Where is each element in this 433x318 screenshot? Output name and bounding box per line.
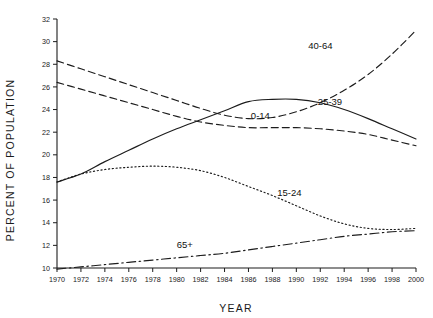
series-label-40-64: 40-64 <box>308 40 332 51</box>
y-tick-label: 24 <box>42 105 50 114</box>
series-label-15-24: 15-24 <box>277 187 301 198</box>
x-tick-label: 1998 <box>384 275 400 284</box>
y-tick-label: 32 <box>42 15 50 24</box>
y-tick-label: 16 <box>42 196 50 205</box>
x-tick-label: 1974 <box>97 275 113 284</box>
x-tick-label: 1990 <box>288 275 304 284</box>
chart-canvas: 101214161820222426283032 197019721974197… <box>0 0 433 318</box>
y-tick-label: 30 <box>42 37 50 46</box>
y-axis-title: PERCENT OF POPULATION <box>4 79 16 242</box>
y-tick-label: 26 <box>42 83 50 92</box>
y-tick-label: 12 <box>42 241 50 250</box>
y-tick-label: 10 <box>42 264 50 273</box>
x-tick-label: 1984 <box>217 275 233 284</box>
y-tick-label: 20 <box>42 150 50 159</box>
x-tick-label: 1976 <box>121 275 137 284</box>
series-label-65plus: 65+ <box>177 239 194 250</box>
series-label-25-39: 25-39 <box>318 96 342 107</box>
x-tick-label: 1986 <box>240 275 256 284</box>
x-tick-label: 1988 <box>264 275 280 284</box>
x-tick-label: 1996 <box>360 275 376 284</box>
x-tick-label: 1972 <box>73 275 89 284</box>
x-tick-label: 1978 <box>145 275 161 284</box>
x-tick-label: 2000 <box>408 275 424 284</box>
x-tick-label: 1994 <box>336 275 352 284</box>
series-label-0-14: 0-14 <box>251 110 270 121</box>
population-percent-by-age-line-chart: 101214161820222426283032 197019721974197… <box>0 0 433 318</box>
x-tick-label: 1970 <box>49 275 65 284</box>
x-axis-title: YEAR <box>219 302 252 314</box>
x-tick-label: 1980 <box>169 275 185 284</box>
x-tick-label: 1982 <box>193 275 209 284</box>
y-tick-label: 18 <box>42 173 50 182</box>
y-tick-label: 14 <box>42 218 50 227</box>
x-tick-label: 1992 <box>312 275 328 284</box>
y-tick-label: 28 <box>42 60 50 69</box>
y-tick-label: 22 <box>42 128 50 137</box>
